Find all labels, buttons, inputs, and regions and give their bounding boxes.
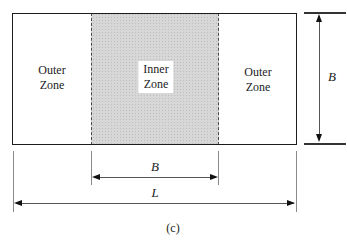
footing-zone-diagram: Outer Zone Inner Zone Outer Zone B B L (…: [0, 0, 347, 243]
arrow-down-icon: [316, 134, 322, 142]
outer-zone-left-label: Outer Zone: [38, 63, 65, 93]
arrow-up-icon: [316, 14, 322, 22]
arrow-left-icon: [14, 200, 22, 206]
dim-B-top-tick: [304, 12, 346, 14]
dim-L-line: [16, 203, 294, 204]
dim-L-label: L: [151, 185, 158, 201]
arrow-right-icon: [287, 200, 295, 206]
dim-B-bottom-tick: [304, 143, 346, 145]
dim-innerB-label: B: [151, 159, 159, 175]
figure-caption: (c): [166, 221, 179, 236]
arrow-left-icon: [92, 174, 100, 180]
dim-B-label: B: [328, 69, 336, 85]
dim-innerB-ext-right: [218, 151, 219, 185]
dim-innerB-line: [94, 177, 216, 178]
dim-B-line: [319, 16, 320, 140]
outer-zone-right-label: Outer Zone: [244, 65, 271, 95]
inner-zone-label: Inner Zone: [138, 61, 173, 93]
dim-L-ext-right: [296, 151, 297, 212]
arrow-right-icon: [210, 174, 218, 180]
